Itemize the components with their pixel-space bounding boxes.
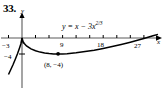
x-axis-arrow [156, 35, 162, 41]
curve-left-branch [9, 38, 23, 75]
minimum-point-marker [56, 52, 60, 56]
graph-svg [0, 0, 166, 112]
y-axis-arrow [19, 13, 24, 19]
